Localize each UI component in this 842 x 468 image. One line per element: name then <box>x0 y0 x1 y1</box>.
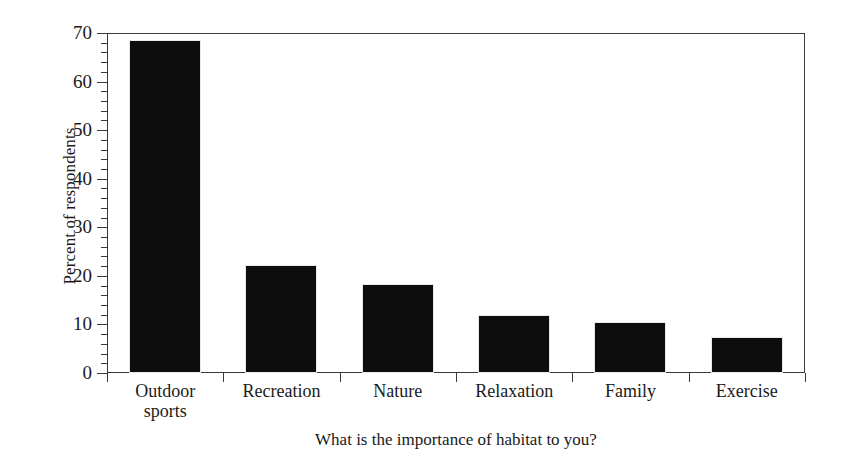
y-tick-label: 40 <box>32 169 92 188</box>
y-tick-minor <box>101 247 107 248</box>
bar-family[interactable] <box>594 322 666 373</box>
y-tick-major <box>97 373 107 374</box>
y-tick-minor <box>101 363 107 364</box>
y-tick-minor <box>101 198 107 199</box>
y-tick-minor <box>101 120 107 121</box>
y-tick-minor <box>101 256 107 257</box>
bar-slot <box>107 33 223 373</box>
y-tick-major <box>97 276 107 277</box>
x-tick-label-line: Recreation <box>223 381 339 401</box>
y-tick-minor <box>101 305 107 306</box>
x-axis-tick-labels: OutdoorsportsRecreationNatureRelaxationF… <box>107 381 805 421</box>
x-tick-label: Relaxation <box>456 381 572 421</box>
bar-slot <box>689 33 805 373</box>
bar-exercise[interactable] <box>711 337 783 373</box>
y-tick-label: 60 <box>32 72 92 91</box>
y-tick-minor <box>101 315 107 316</box>
y-tick-label: 50 <box>32 120 92 139</box>
y-axis-title: Percent of respondents <box>60 56 80 356</box>
y-tick-major <box>97 179 107 180</box>
y-tick-minor <box>101 344 107 345</box>
x-tick-label: Family <box>572 381 688 421</box>
x-tick-label-line: Exercise <box>689 381 805 401</box>
y-tick-label: 30 <box>32 217 92 236</box>
bar-slot <box>223 33 339 373</box>
y-tick-minor <box>101 43 107 44</box>
x-tick-label: Exercise <box>689 381 805 421</box>
x-tick-label-line: Relaxation <box>456 381 572 401</box>
y-tick-minor <box>101 169 107 170</box>
y-tick-minor <box>101 295 107 296</box>
x-tick-label-line: Outdoor <box>107 381 223 401</box>
y-tick-minor <box>101 140 107 141</box>
y-tick-major <box>97 227 107 228</box>
bar-slot <box>456 33 572 373</box>
y-tick-minor <box>101 52 107 53</box>
y-tick-minor <box>101 286 107 287</box>
bar-outdoor-sports[interactable] <box>129 40 201 373</box>
x-tick-label-line: Family <box>572 381 688 401</box>
y-tick-minor <box>101 334 107 335</box>
y-tick-major <box>97 130 107 131</box>
y-tick-minor <box>101 218 107 219</box>
bar-slot <box>340 33 456 373</box>
x-tick-label: Recreation <box>223 381 339 421</box>
bar-relaxation[interactable] <box>478 315 550 373</box>
y-tick-label: 20 <box>32 266 92 285</box>
bar-slot <box>572 33 688 373</box>
y-tick-minor <box>101 91 107 92</box>
x-tick-label: Nature <box>340 381 456 421</box>
y-tick-minor <box>101 72 107 73</box>
y-tick-minor <box>101 111 107 112</box>
x-tick-label-line: sports <box>107 401 223 421</box>
y-tick-major <box>97 324 107 325</box>
x-tick-label: Outdoorsports <box>107 381 223 421</box>
y-tick-major <box>97 33 107 34</box>
y-tick-minor <box>101 237 107 238</box>
bars-layer <box>107 33 805 373</box>
x-tick <box>805 373 806 382</box>
y-tick-minor <box>101 62 107 63</box>
y-tick-label: 70 <box>32 23 92 42</box>
y-tick-minor <box>101 354 107 355</box>
y-tick-minor <box>101 266 107 267</box>
x-axis-title: What is the importance of habitat to you… <box>107 430 805 450</box>
bar-recreation[interactable] <box>245 265 317 373</box>
x-tick-label-line: Nature <box>340 381 456 401</box>
y-tick-minor <box>101 159 107 160</box>
y-tick-label: 10 <box>32 314 92 333</box>
y-tick-minor <box>101 208 107 209</box>
y-tick-label: 0 <box>32 363 92 382</box>
bar-nature[interactable] <box>362 284 434 373</box>
y-tick-minor <box>101 188 107 189</box>
y-tick-minor <box>101 101 107 102</box>
bar-chart-figure: Percent of respondents 010203040506070 O… <box>0 0 842 468</box>
y-tick-major <box>97 82 107 83</box>
y-tick-minor <box>101 150 107 151</box>
